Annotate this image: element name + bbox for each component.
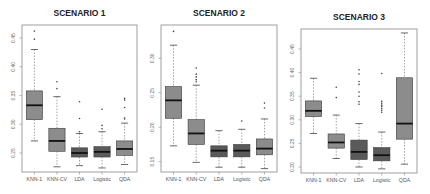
box-knn-1 [305,78,321,133]
panel-title: SCENARIO 2 [193,8,245,18]
outlier-point [195,67,197,69]
box-knn-cv [49,81,65,167]
outlier-point [101,109,103,111]
outlier-point [56,81,58,83]
x-tick-label: LDA [214,176,225,182]
iqr-box [374,148,390,161]
outlier-point [124,117,126,119]
y-tick-label: 0.30 [289,115,295,125]
x-tick-label: Logistic [233,176,251,182]
outlier-point [124,98,126,100]
outlier-point [101,128,103,130]
y-tick-label: 0.30 [149,53,155,63]
outlier-point [241,120,243,122]
x-tick-label: Logistic [93,176,111,182]
box-knn-1 [26,30,42,141]
box-logistic [374,73,390,169]
y-tick-label: 0.35 [10,90,16,100]
box-logistic [94,109,110,168]
iqr-box [49,128,65,151]
y-tick-label: 0.20 [149,122,155,132]
y-tick-label: 0.25 [149,88,155,98]
iqr-box [396,78,412,139]
box-lda [351,69,367,167]
outlier-point [195,79,197,81]
x-tick-label: Logistic [373,177,391,183]
y-tick-label: 0.45 [289,44,295,54]
outlier-point [34,38,36,40]
outlier-point [358,84,360,86]
outlier-point [79,101,81,103]
box-logistic [234,120,250,167]
x-tick-label: KNN-CV [326,177,346,183]
y-tick-label: 0.25 [289,138,295,148]
box-lda [71,101,87,166]
iqr-box [256,139,272,155]
outlier-point [79,131,81,133]
box-lda [211,131,227,168]
outlier-point [173,31,175,33]
outlier-point [124,99,126,101]
iqr-box [165,87,181,119]
box-qda [256,102,272,168]
y-tick-label: 0.40 [289,68,295,78]
y-tick-label: 0.45 [10,33,16,43]
outlier-point [79,118,81,120]
iqr-box [328,134,344,148]
outlier-point [358,73,360,75]
outlier-point [381,110,383,112]
x-tick-label: QDA [399,177,411,183]
outlier-point [264,102,266,104]
y-tick-label: 0.25 [10,148,16,158]
x-tick-label: LDA [74,176,85,182]
iqr-box [188,120,204,145]
outlier-point [195,76,197,78]
box-knn-1 [165,31,181,146]
outlier-point [358,91,360,93]
panel-title: SCENARIO 1 [54,8,106,18]
x-tick-label: LDA [354,177,365,183]
outlier-point [381,104,383,106]
panel-3: SCENARIO 30.200.250.300.350.400.45KNN-1K… [289,12,417,183]
y-tick-label: 0.30 [10,119,16,129]
outlier-point [195,73,197,75]
panel-2: SCENARIO 20.150.200.250.30KNN-1KNN-CVLDA… [149,8,277,182]
x-tick-label: KNN-CV [47,176,67,182]
x-tick-label: KNN-1 [306,177,322,183]
x-tick-label: KNN-1 [166,176,182,182]
box-qda [116,98,132,165]
outlier-point [358,101,360,103]
box-knn-cv [328,86,344,158]
outlier-point [381,108,383,110]
x-tick-label: QDA [259,176,271,182]
y-tick-label: 0.40 [10,62,16,72]
y-tick-label: 0.20 [289,162,295,172]
x-tick-label: QDA [119,176,131,182]
outlier-point [358,95,360,97]
outlier-point [56,88,58,90]
boxplot-canvas: SCENARIO 10.250.300.350.400.45KNN-1KNN-C… [0,0,430,194]
outlier-point [124,107,126,109]
box-knn-cv [188,67,204,162]
panel-title: SCENARIO 3 [333,12,385,22]
panel-1: SCENARIO 10.250.300.350.400.45KNN-1KNN-C… [10,8,137,182]
iqr-box [351,140,367,159]
outlier-point [381,106,383,108]
boxplot-figure: SCENARIO 10.250.300.350.400.45KNN-1KNN-C… [0,0,430,194]
x-tick-label: KNN-CV [186,176,206,182]
outlier-point [335,86,337,88]
y-tick-label: 0.15 [149,157,155,167]
outlier-point [381,73,383,75]
outlier-point [358,69,360,71]
outlier-point [34,30,36,32]
iqr-box [305,101,321,117]
box-qda [396,33,412,164]
outlier-point [381,111,383,113]
outlier-point [101,125,103,127]
outlier-point [381,101,383,103]
outlier-point [335,97,337,99]
outlier-point [358,81,360,83]
outlier-point [358,103,360,105]
x-tick-label: KNN-1 [27,176,43,182]
outlier-point [381,102,383,104]
